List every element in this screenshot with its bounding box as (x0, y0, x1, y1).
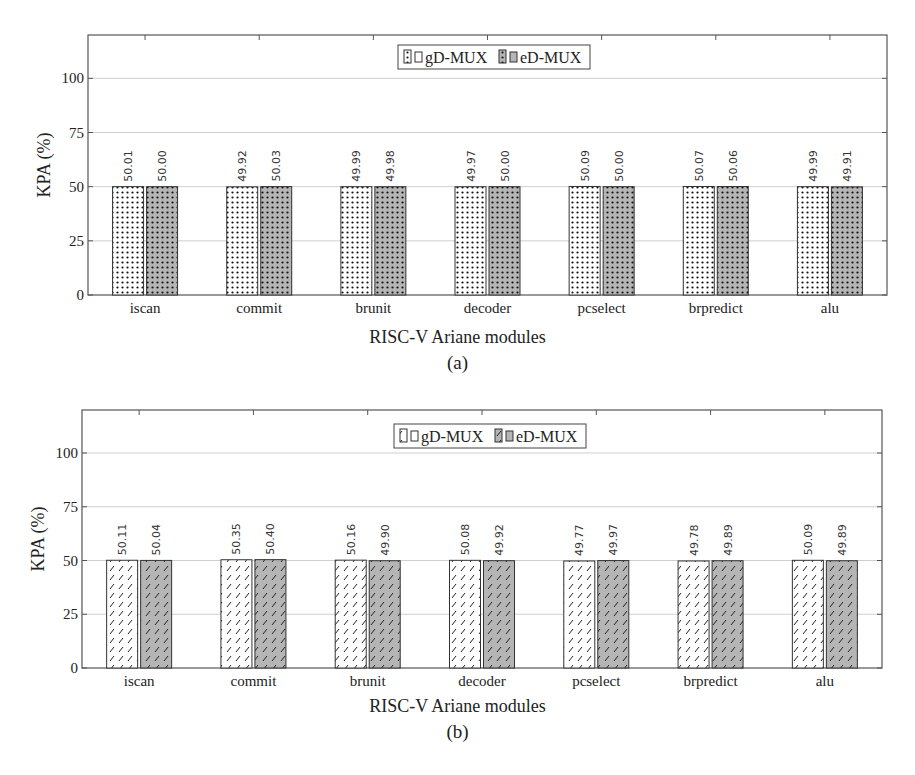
bar-gd-mux-brunit (341, 187, 372, 295)
bar-gd-mux-pcselect (564, 561, 595, 668)
x-tick-label: commit (236, 300, 283, 316)
y-tick-label: 50 (69, 179, 84, 195)
bar-ed-mux-alu (831, 187, 862, 295)
bar-gd-mux-alu (792, 560, 823, 668)
x-tick-label: decoder (458, 673, 505, 689)
y-tick-label: 75 (63, 499, 78, 515)
bar-value-label: 50.07 (693, 150, 706, 182)
bar-value-label: 49.97 (465, 150, 478, 182)
bar-value-label: 49.89 (722, 524, 735, 556)
legend-swatch-icon (495, 429, 502, 442)
legend-swatch-icon (411, 431, 418, 441)
y-tick-label: 50 (63, 553, 78, 569)
bar-value-label: 49.99 (350, 150, 363, 182)
y-tick-label: 100 (56, 445, 79, 461)
legend-swatch-icon (400, 429, 407, 442)
bar-gd-mux-iscan (107, 560, 138, 668)
x-tick-label: brpredict (689, 300, 744, 316)
bar-ed-mux-commit (261, 187, 292, 295)
y-tick-label: 100 (62, 70, 85, 86)
chart-a: 0255075100KPA (%)50.0150.00iscan49.9250.… (0, 0, 915, 330)
bar-value-label: 49.92 (493, 524, 506, 556)
bar-value-label: 50.00 (499, 150, 512, 182)
bar-value-label: 50.00 (156, 150, 169, 182)
plot-frame (82, 410, 882, 668)
bar-gd-mux-commit (227, 187, 258, 295)
legend-label: eD-MUX (520, 49, 582, 66)
bar-gd-mux-brpredict (678, 561, 709, 668)
y-tick-label: 0 (77, 287, 85, 303)
legend-label: eD-MUX (516, 428, 578, 445)
legend-label: gD-MUX (425, 49, 488, 67)
x-tick-label: brunit (350, 673, 387, 689)
bar-ed-mux-commit (255, 560, 286, 668)
bar-value-label: 49.92 (236, 150, 249, 182)
x-tick-label: brunit (355, 300, 392, 316)
bar-value-label: 49.98 (384, 150, 397, 182)
chart-b-plot: 0255075100KPA (%)50.1150.04iscan50.3550.… (0, 375, 915, 705)
legend: gD-MUXeD-MUX (398, 45, 590, 69)
bar-ed-mux-brpredict (717, 187, 748, 295)
legend-swatch-icon (506, 431, 513, 441)
bar-value-label: 50.11 (116, 524, 129, 556)
y-tick-label: 0 (71, 660, 79, 676)
legend-swatch-icon (404, 50, 411, 63)
y-tick-label: 75 (69, 125, 84, 141)
y-tick-label: 25 (69, 233, 84, 249)
bar-value-label: 50.00 (613, 150, 626, 182)
legend-label: gD-MUX (421, 428, 484, 446)
bar-value-label: 50.04 (150, 524, 163, 556)
bar-ed-mux-brpredict (712, 561, 743, 668)
y-tick-label: 25 (63, 606, 78, 622)
x-tick-label: pcselect (577, 300, 626, 316)
bar-value-label: 49.99 (807, 150, 820, 182)
x-tick-label: commit (231, 673, 278, 689)
chart-a-x-axis-title: RISC-V Ariane modules (0, 327, 915, 348)
bar-value-label: 50.01 (122, 150, 135, 182)
bar-value-label: 49.97 (607, 524, 620, 556)
bar-gd-mux-brunit (335, 560, 366, 668)
bar-ed-mux-brunit (375, 187, 406, 295)
x-tick-label: alu (816, 673, 835, 689)
bar-ed-mux-pcselect (603, 187, 634, 295)
bar-value-label: 49.78 (688, 524, 701, 556)
x-tick-label: decoder (464, 300, 511, 316)
bar-gd-mux-decoder (455, 187, 486, 295)
x-tick-label: alu (821, 300, 840, 316)
x-tick-label: iscan (124, 673, 155, 689)
chart-b-caption: (b) (0, 721, 915, 743)
legend: gD-MUXeD-MUX (394, 424, 586, 448)
bar-value-label: 50.08 (459, 524, 472, 556)
chart-a-plot: 0255075100KPA (%)50.0150.00iscan49.9250.… (0, 0, 915, 330)
bar-value-label: 49.91 (841, 150, 854, 182)
bar-value-label: 49.89 (836, 524, 849, 556)
bar-value-label: 50.06 (727, 150, 740, 182)
plot-frame (88, 35, 887, 295)
chart-a-caption: (a) (0, 352, 915, 374)
x-tick-label: pcselect (572, 673, 621, 689)
bar-value-label: 50.40 (264, 523, 277, 555)
legend-swatch-icon (499, 50, 506, 63)
bar-gd-mux-decoder (450, 560, 481, 668)
bar-ed-mux-brunit (369, 561, 400, 668)
bar-gd-mux-iscan (113, 187, 144, 295)
bar-gd-mux-pcselect (569, 186, 600, 295)
y-axis-title: KPA (%) (28, 507, 49, 572)
bar-value-label: 49.90 (379, 524, 392, 556)
x-tick-label: brpredict (684, 673, 739, 689)
bar-value-label: 50.03 (270, 150, 283, 182)
bar-ed-mux-decoder (489, 187, 520, 295)
bar-gd-mux-brpredict (683, 187, 714, 295)
bar-ed-mux-decoder (484, 561, 515, 668)
bar-value-label: 50.16 (345, 524, 358, 556)
bar-value-label: 49.77 (573, 524, 586, 556)
bar-gd-mux-commit (221, 560, 252, 668)
legend-swatch-icon (415, 52, 422, 62)
bar-value-label: 50.35 (230, 523, 243, 555)
y-axis-title: KPA (%) (34, 133, 55, 198)
legend-swatch-icon (510, 52, 517, 62)
x-tick-label: iscan (130, 300, 161, 316)
bar-ed-mux-alu (826, 561, 857, 668)
bar-gd-mux-alu (797, 187, 828, 295)
chart-b-x-axis-title: RISC-V Ariane modules (0, 696, 915, 717)
